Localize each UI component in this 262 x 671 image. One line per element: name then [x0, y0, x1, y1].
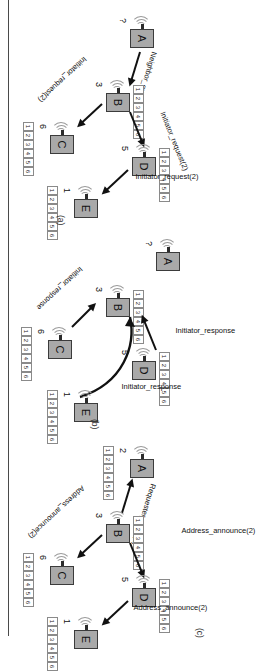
node-letter: C: [50, 135, 74, 154]
table-cell: 5: [159, 615, 170, 624]
node-letter: C: [50, 566, 74, 585]
panel-b-node-a[interactable]: A: [154, 245, 180, 271]
table-cell: 5: [23, 158, 34, 167]
table-cell: 3: [23, 140, 34, 149]
table-cell: 1: [159, 352, 170, 361]
table-cell: 5: [47, 426, 58, 435]
table-cell: 3: [133, 103, 144, 112]
panel-a-node-e-table: 1 2 3 4 5 6: [47, 186, 58, 240]
panel-b-label-initiator-response-db: Initiator_response: [176, 326, 236, 335]
panel-b-node-a-id: ?: [144, 241, 154, 246]
table-cell: 1: [23, 122, 34, 131]
table-cell: 6: [159, 193, 170, 202]
panel-a-node-e[interactable]: E: [72, 192, 98, 218]
table-cell: 1: [23, 553, 34, 562]
panel-c-node-a-table: 1 2 3 4 5 6: [103, 446, 114, 500]
page-rule-divider: [8, 0, 9, 636]
node-letter: E: [74, 199, 98, 218]
panel-b-label: (b): [90, 419, 100, 429]
table-cell: 4: [23, 149, 34, 158]
node-letter: C: [48, 340, 72, 359]
table-cell: 1: [47, 617, 58, 626]
table-cell: 1: [133, 85, 144, 94]
panel-b-node-c[interactable]: C: [46, 333, 72, 359]
node-letter: A: [130, 29, 154, 48]
panel-b-node-e-id: 1: [62, 392, 72, 397]
table-cell: 5: [103, 482, 114, 491]
panel-c-node-d-id: 5: [120, 577, 130, 582]
table-cell: 2: [133, 94, 144, 103]
node-letter: E: [74, 630, 98, 649]
panel-c-node-b[interactable]: B: [104, 517, 130, 543]
table-cell: 4: [47, 417, 58, 426]
table-cell: 6: [47, 662, 58, 671]
panel-a-node-a-id: ?: [118, 18, 128, 23]
table-cell: 1: [21, 327, 32, 336]
table-cell: 6: [159, 397, 170, 406]
node-letter: A: [156, 252, 180, 271]
table-cell: 4: [103, 473, 114, 482]
table-cell: 6: [47, 231, 58, 240]
table-cell: 6: [47, 435, 58, 444]
panel-a-label: (a): [56, 215, 66, 225]
table-cell: 3: [103, 464, 114, 473]
panel-a-node-b[interactable]: B: [104, 86, 130, 112]
panel-a-node-c-id: 6: [38, 124, 48, 129]
table-cell: 1: [47, 186, 58, 195]
table-cell: 2: [159, 588, 170, 597]
panel-a-node-e-id: 1: [62, 188, 72, 193]
table-cell: 3: [47, 204, 58, 213]
panel-c-node-b-id: 3: [94, 513, 104, 518]
table-cell: 3: [133, 534, 144, 543]
table-cell: 2: [103, 455, 114, 464]
table-cell: 2: [133, 525, 144, 534]
panel-c-node-e-id: 1: [62, 619, 72, 624]
table-cell: 3: [159, 370, 170, 379]
panel-a-node-c-table: 1 2 3 4 5 6: [23, 122, 34, 176]
panel-c-label: (c): [195, 628, 205, 638]
table-cell: 4: [21, 354, 32, 363]
table-cell: 1: [133, 290, 144, 299]
table-cell: 6: [23, 598, 34, 607]
panel-a-label-initiator-request-de: Initiator_request(2): [136, 172, 199, 181]
panel-c-node-a[interactable]: A: [128, 452, 154, 478]
table-cell: 4: [47, 644, 58, 653]
panel-c-node-c-id: 6: [38, 555, 48, 560]
table-cell: 1: [159, 148, 170, 157]
panel-b-label-initiator-response-eb: Initiator_response: [122, 382, 182, 391]
panel-b-node-c-id: 6: [36, 329, 46, 334]
table-cell: 2: [159, 157, 170, 166]
panel-a-node-c[interactable]: C: [48, 128, 74, 154]
table-cell: 3: [23, 571, 34, 580]
node-letter: A: [130, 459, 154, 478]
panel-c-label-address-announce-bc: Address_announce(2): [26, 484, 86, 541]
table-cell: 4: [23, 580, 34, 589]
table-cell: 5: [23, 589, 34, 598]
panel-a-node-d-id: 5: [120, 146, 130, 151]
node-letter: B: [106, 524, 130, 543]
panel-a-node-a[interactable]: A: [128, 22, 154, 48]
table-cell: 2: [21, 336, 32, 345]
panel-c-node-c[interactable]: C: [48, 559, 74, 585]
panel-a-node-b-id: 3: [94, 82, 104, 87]
panel-b-node-e-table: 1 2 3 4 5 6: [47, 390, 58, 444]
table-cell: 1: [47, 390, 58, 399]
table-cell: 2: [47, 399, 58, 408]
panel-b-node-d-table: 1 2 3 4 5 6: [159, 352, 170, 406]
panel-c-node-a-id: 2: [118, 448, 128, 453]
panel-c-label-address-announce-de: Address_announce(2): [134, 603, 208, 612]
table-cell: 6: [21, 372, 32, 381]
table-cell: 1: [103, 446, 114, 455]
table-cell: 2: [23, 131, 34, 140]
table-cell: 6: [23, 167, 34, 176]
table-cell: 2: [47, 195, 58, 204]
table-cell: 3: [21, 345, 32, 354]
table-cell: 5: [47, 653, 58, 662]
table-cell: 5: [159, 184, 170, 193]
table-cell: 2: [47, 626, 58, 635]
panel-c-node-e-table: 1 2 3 4 5 6: [47, 617, 58, 671]
panel-a-label-initiator-request-bc: Initiator_request(2): [36, 55, 88, 105]
panel-c-node-e[interactable]: E: [72, 623, 98, 649]
